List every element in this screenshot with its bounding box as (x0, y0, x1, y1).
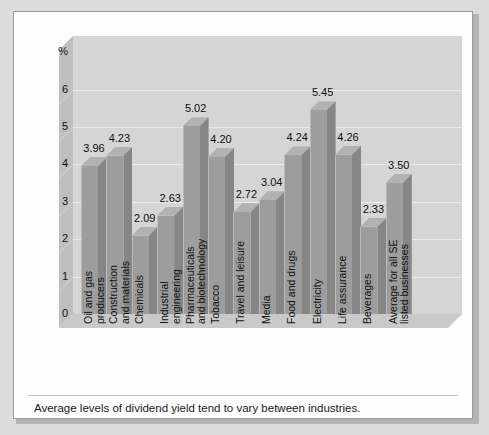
x-axis-category-label: Oil and gas (83, 271, 95, 324)
y-axis-tick-label: 2 (44, 232, 68, 244)
bar-value-label: 4.24 (278, 131, 316, 143)
gridline (73, 90, 462, 91)
x-axis-category-label: Life assurance (337, 256, 349, 324)
bar-value-label: 4.26 (329, 131, 367, 143)
x-axis-category-label: Tobacco (210, 285, 222, 324)
figure-caption: Average levels of dividend yield tend to… (34, 402, 454, 414)
x-axis-category-label: and biotechnology (196, 239, 208, 324)
x-axis-category-label: Media (261, 295, 273, 324)
y-axis-tick-label: 3 (44, 195, 68, 207)
y-axis-tick-label: 1 (44, 270, 68, 282)
x-axis-category-label: Travel and leisure (235, 241, 247, 324)
x-axis-category-label: and materials (120, 261, 132, 324)
bar-value-label: 2.33 (354, 203, 392, 215)
y-axis-tick-label: 4 (44, 157, 68, 169)
x-axis-category-label: Chemicals (134, 275, 146, 324)
x-axis-category-label: listed businesses (399, 244, 411, 324)
x-axis-category-label: producers (95, 277, 107, 324)
bar-value-label: 4.23 (100, 132, 138, 144)
caption-divider (28, 395, 458, 396)
y-axis-tick-label: 5 (44, 120, 68, 132)
y-axis-tick-label: 6 (44, 83, 68, 95)
figure-panel: 6543210 % 3.964.232.092.635.024.202.723.… (13, 11, 473, 419)
bar-value-label: 3.50 (380, 159, 418, 171)
bar-value-label: 5.02 (177, 102, 215, 114)
bar-value-label: 2.09 (126, 212, 164, 224)
bar-value-label: 5.45 (304, 86, 342, 98)
bar-value-label: 4.20 (202, 133, 240, 145)
gridline (73, 127, 462, 128)
y-axis-tick-label: 0 (44, 307, 68, 319)
x-axis-category-label: Beverages (362, 274, 374, 324)
bar-value-label: 3.04 (253, 176, 291, 188)
x-axis-category-label: Electricity (312, 279, 324, 324)
chart-figure: 6543210 % 3.964.232.092.635.024.202.723.… (14, 12, 472, 392)
x-axis-category-label: Food and drugs (286, 250, 298, 324)
x-axis-category-label: Industrial (159, 281, 171, 324)
y-axis-unit-label: % (50, 45, 68, 57)
x-axis-category-label: engineering (171, 269, 183, 324)
bar-value-label: 2.72 (227, 188, 265, 200)
screenshot-root: 6543210 % 3.964.232.092.635.024.202.723.… (0, 0, 489, 435)
bar-value-label: 2.63 (151, 192, 189, 204)
